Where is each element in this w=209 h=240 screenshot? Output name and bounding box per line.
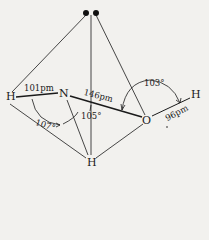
atom-h-right: H: [191, 89, 201, 100]
angle-n-o-h: 103°: [144, 79, 164, 88]
atom-h-left: H: [6, 91, 16, 102]
bond-h-n: [16, 93, 58, 97]
atom-n: N: [59, 88, 69, 99]
angle-h-n-o: 105°: [81, 112, 101, 121]
atom-o: O: [142, 115, 151, 126]
bond-length-h-n: 101pm: [24, 84, 54, 93]
atom-h-bottom: H: [87, 157, 97, 168]
